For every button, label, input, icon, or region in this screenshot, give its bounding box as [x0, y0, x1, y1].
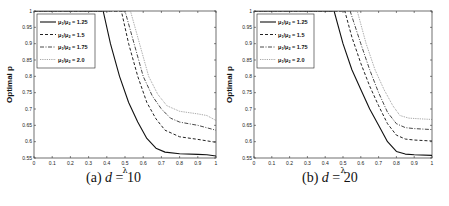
y-tick-label: 0.6 — [245, 138, 252, 144]
y-axis-label: Optimal p — [225, 66, 234, 103]
caption-b-prefix: (b) — [302, 170, 318, 185]
y-tick-label: 0.85 — [22, 57, 32, 63]
x-tick-label: 0.3 — [85, 160, 92, 166]
x-tick-label: 0.9 — [194, 160, 201, 166]
x-tick-label: 0.3 — [304, 160, 311, 166]
caption-a-value: = 10 — [116, 170, 141, 185]
chart-panel-a: 00.10.20.30.40.50.60.70.80.910.550.60.65… — [5, 8, 218, 175]
x-tick-label: 0.9 — [411, 160, 418, 166]
y-tick-label: 0.65 — [22, 122, 32, 128]
x-tick-label: 0 — [253, 160, 256, 166]
x-tick-label: 0 — [33, 160, 36, 166]
legend: μ1/μ2 = 1.25μ1/μ2 = 1.5μ1/μ2 = 1.75μ1/μ2… — [37, 14, 95, 68]
x-tick-label: 0.8 — [393, 160, 400, 166]
caption-b-var: d — [322, 170, 329, 185]
legend: μ1/μ2 = 1.25μ1/μ2 = 1.5μ1/μ2 = 1.75μ1/μ2… — [257, 14, 314, 68]
x-tick-label: 0.6 — [140, 160, 147, 166]
x-tick-label: 0.6 — [357, 160, 364, 166]
y-tick-label: 0.55 — [22, 155, 32, 161]
y-tick-label: 0.8 — [25, 73, 32, 79]
x-tick-label: 0.1 — [268, 160, 275, 166]
y-tick-label: 0.75 — [242, 89, 252, 95]
caption-a-prefix: (a) — [86, 170, 102, 185]
caption-a: (a) d = 10 — [86, 170, 141, 186]
chart-panel-b: 00.10.20.30.40.50.60.70.80.910.550.60.65… — [225, 8, 434, 175]
x-tick-label: 0.7 — [375, 160, 382, 166]
caption-b-value: = 20 — [332, 170, 357, 185]
y-tick-label: 0.6 — [25, 138, 32, 144]
y-tick-label: 0.9 — [25, 40, 32, 46]
y-tick-label: 0.7 — [245, 106, 252, 112]
x-tick-label: 1 — [431, 160, 434, 166]
y-tick-label: 0.75 — [22, 89, 32, 95]
y-tick-label: 1 — [29, 8, 32, 14]
y-tick-label: 0.65 — [242, 122, 252, 128]
y-tick-label: 0.95 — [242, 24, 252, 30]
y-tick-label: 0.55 — [242, 155, 252, 161]
y-tick-label: 0.9 — [245, 40, 252, 46]
y-tick-label: 0.95 — [22, 24, 32, 30]
x-tick-label: 1 — [215, 160, 218, 166]
x-tick-label: 0.2 — [286, 160, 293, 166]
y-tick-label: 1 — [249, 8, 252, 14]
x-tick-label: 0.2 — [67, 160, 74, 166]
x-tick-label: 0.4 — [322, 160, 329, 166]
x-tick-label: 0.7 — [158, 160, 165, 166]
y-tick-label: 0.85 — [242, 57, 252, 63]
x-tick-label: 0.1 — [49, 160, 56, 166]
y-tick-label: 0.8 — [245, 73, 252, 79]
x-tick-label: 0.8 — [176, 160, 183, 166]
caption-a-var: d — [105, 170, 112, 185]
x-tick-label: 0.4 — [103, 160, 110, 166]
caption-b: (b) d = 20 — [302, 170, 358, 186]
figure-canvas: 00.10.20.30.40.50.60.70.80.910.550.60.65… — [0, 0, 449, 206]
y-axis-label: Optimal p — [5, 66, 14, 103]
y-tick-label: 0.7 — [25, 106, 32, 112]
